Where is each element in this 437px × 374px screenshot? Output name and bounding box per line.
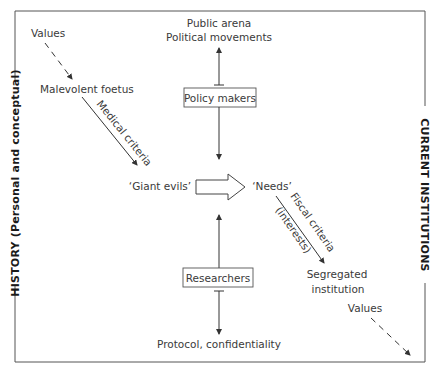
- policy-makers-label: Policy makers: [184, 92, 256, 104]
- political-movements-label: Political movements: [166, 31, 272, 43]
- malevolent-foetus-label: Malevolent foetus: [40, 83, 134, 95]
- researchers-label: Researchers: [186, 272, 250, 284]
- policy-makers-node: Policy makers: [184, 88, 256, 107]
- arrow-values-bottom: [371, 318, 410, 355]
- values-bottom-label: Values: [348, 302, 382, 314]
- arrow-values-to-foetus: [45, 43, 72, 79]
- public-arena-label: Public arena: [187, 17, 251, 29]
- values-top-label: Values: [31, 27, 65, 39]
- hollow-arrow-icon: [196, 174, 245, 200]
- giant-evils-label: ‘Giant evils’: [129, 180, 191, 192]
- right-axis-label: CURRENT INSTITUTIONS: [418, 118, 431, 271]
- segregated-label: Segregated: [307, 268, 368, 280]
- medical-criteria-label: Medical criteria: [94, 98, 154, 168]
- needs-label: ‘Needs’: [252, 180, 292, 192]
- institution-label: institution: [312, 283, 365, 295]
- policy-diagram: HISTORY (Personal and conceptual) CURREN…: [0, 0, 437, 374]
- protocol-confidentiality-label: Protocol, confidentiality: [157, 338, 281, 350]
- researchers-node: Researchers: [183, 268, 253, 287]
- left-axis-label: HISTORY (Personal and conceptual): [9, 69, 22, 296]
